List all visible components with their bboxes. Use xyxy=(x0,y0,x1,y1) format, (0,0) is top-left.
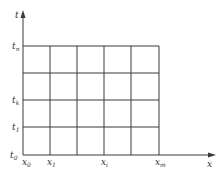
t-axis-arrow-icon xyxy=(21,10,26,18)
t-tick-n: tn xyxy=(12,41,20,52)
mesh-grid xyxy=(23,46,159,155)
t-tick-0: t0 xyxy=(10,150,18,161)
t-tick-1: t1 xyxy=(12,122,19,133)
t-axis-label: t xyxy=(15,10,19,20)
x-axis-label: x xyxy=(207,159,212,169)
t-tick-k: tk xyxy=(12,95,20,106)
x-tick-1: x1 xyxy=(47,157,56,168)
grid-diagram: t x t0 t1 tk tn x0 x1 xi xm xyxy=(0,0,219,170)
x-tick-0: x0 xyxy=(22,157,31,168)
x-axis-arrow-icon xyxy=(208,153,216,158)
x-tick-m: xm xyxy=(155,157,166,168)
x-tick-i: xi xyxy=(101,157,108,168)
axes xyxy=(23,14,211,155)
